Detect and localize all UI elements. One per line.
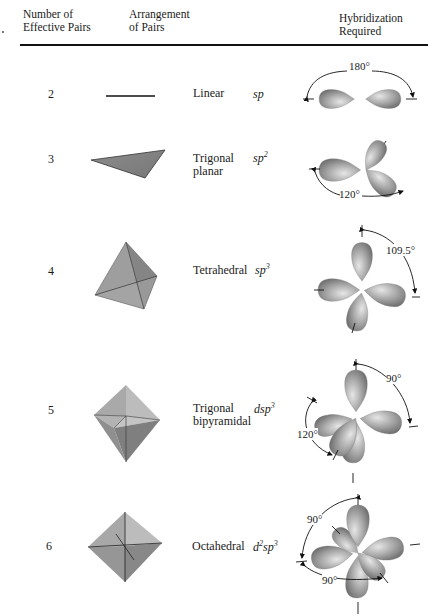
angle-label-180: 180° bbox=[347, 60, 372, 72]
hybridization-sp3: sp3 bbox=[255, 262, 270, 278]
hybrid-base: sp bbox=[263, 540, 274, 554]
arrangement-label-tetrahedral: Tetrahedral bbox=[193, 264, 247, 277]
hybridization-d2sp3: d2sp3 bbox=[253, 539, 278, 555]
header-divider bbox=[20, 44, 428, 46]
trigonal-planar-shape bbox=[88, 148, 168, 183]
angle-label-90-lower: 90° bbox=[322, 574, 337, 586]
header-arrangement: Arrangement of Pairs bbox=[129, 8, 190, 34]
d2sp3-orbital-diagram bbox=[290, 490, 430, 616]
arrangement-label-trigonal-bipyramidal: Trigonal bipyramidal bbox=[193, 402, 251, 428]
pairs-count-2: 2 bbox=[48, 87, 54, 102]
pairs-count-5: 5 bbox=[48, 403, 54, 418]
angle-label-90-upper: 90° bbox=[307, 513, 322, 525]
arrangement-label-linear: Linear bbox=[193, 87, 224, 100]
tetrahedral-shape bbox=[93, 240, 163, 312]
hybrid-superscript: 3 bbox=[274, 539, 278, 548]
octahedral-shape bbox=[86, 510, 166, 584]
pairs-count-3: 3 bbox=[48, 152, 54, 167]
hybridization-sp2: sp2 bbox=[253, 150, 268, 166]
angle-label-109-5: 109.5° bbox=[386, 244, 415, 256]
hybrid-base: sp bbox=[253, 87, 264, 101]
dsp3-orbital-diagram bbox=[290, 355, 430, 485]
arrangement-label-line1: Linear bbox=[193, 86, 224, 100]
pairs-count-6: 6 bbox=[46, 539, 52, 554]
arrangement-label-octahedral: Octahedral bbox=[192, 540, 245, 553]
angle-label-120: 120° bbox=[339, 188, 360, 200]
pairs-count-4: 4 bbox=[48, 264, 54, 279]
trigonal-bipyramidal-shape bbox=[92, 383, 164, 463]
header-arrangement-line2: of Pairs bbox=[129, 21, 190, 34]
hybrid-superscript: 3 bbox=[266, 262, 270, 271]
stray-mark bbox=[2, 31, 4, 33]
hybridization-dsp3: dsp3 bbox=[254, 401, 275, 417]
hybridization-sp: sp bbox=[253, 87, 264, 102]
header-effective-pairs-line1: Number of bbox=[23, 8, 91, 21]
arrangement-label-line1: Tetrahedral bbox=[193, 263, 247, 277]
arrangement-label-line2: bipyramidal bbox=[193, 415, 251, 428]
hybrid-base: sp bbox=[260, 402, 271, 416]
hybrid-superscript: 2 bbox=[264, 150, 268, 159]
angle-label-120: 120° bbox=[297, 428, 318, 440]
arrangement-label-line2: planar bbox=[193, 165, 234, 178]
header-hybridization: Hybridization Required bbox=[339, 12, 403, 38]
header-hybridization-line1: Hybridization bbox=[339, 12, 403, 25]
linear-arrangement-shape bbox=[105, 94, 157, 98]
hybrid-base: sp bbox=[255, 263, 266, 277]
header-arrangement-line1: Arrangement bbox=[129, 8, 190, 21]
sp2-orbital-diagram bbox=[300, 135, 420, 210]
hybrid-base: sp bbox=[253, 151, 264, 165]
arrangement-label-trigonal-planar: Trigonal planar bbox=[193, 152, 234, 178]
sp3-orbital-diagram bbox=[300, 215, 430, 335]
angle-label-90: 90° bbox=[386, 372, 401, 384]
header-effective-pairs: Number of Effective Pairs bbox=[23, 8, 91, 34]
hybrid-superscript: 3 bbox=[271, 401, 275, 410]
header-effective-pairs-line2: Effective Pairs bbox=[23, 21, 91, 34]
header-hybridization-line2: Required bbox=[339, 25, 403, 38]
arrangement-label-line1: Octahedral bbox=[192, 539, 245, 553]
